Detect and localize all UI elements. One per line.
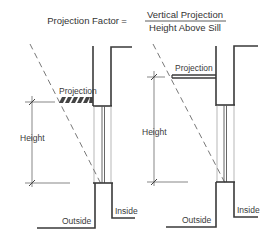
height-label: Height [142,127,167,137]
inside-label: Inside [237,205,260,215]
right-diagram: Projection Height Outside Inside [142,44,260,227]
projection-hatch [59,97,93,103]
projection-factor-diagram: Projection Factor = Vertical Projection … [0,0,274,245]
formula-denominator: Height Above Sill [149,22,221,33]
left-diagram: Projection Height Outside Inside [20,44,138,228]
upper-wall-inner [111,47,132,106]
outside-label: Outside [182,215,212,225]
upper-wall-inner [234,46,258,106]
formula-numerator: Vertical Projection [147,9,223,20]
formula-lhs: Projection Factor [47,15,119,26]
sun-angle-line [30,44,101,184]
formula: Projection Factor = Vertical Projection … [47,9,226,33]
height-label: Height [20,133,45,143]
formula-equals: = [121,15,127,26]
inside-label: Inside [115,206,138,216]
projection-label: Projection [59,86,97,96]
projection-label: Projection [175,63,213,73]
outside-label: Outside [62,216,92,226]
